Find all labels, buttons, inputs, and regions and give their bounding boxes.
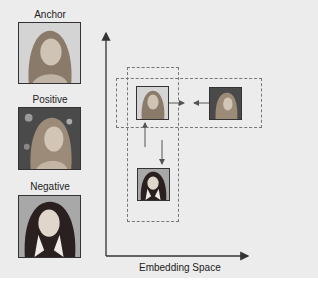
x-axis-label: Embedding Space (139, 262, 221, 273)
positive-point (209, 87, 242, 120)
portrait-negative-icon (138, 169, 169, 200)
negative-point (137, 168, 170, 201)
portrait-anchor-icon (137, 87, 168, 119)
portrait-positive-icon (210, 88, 241, 119)
anchor-point (136, 86, 169, 120)
